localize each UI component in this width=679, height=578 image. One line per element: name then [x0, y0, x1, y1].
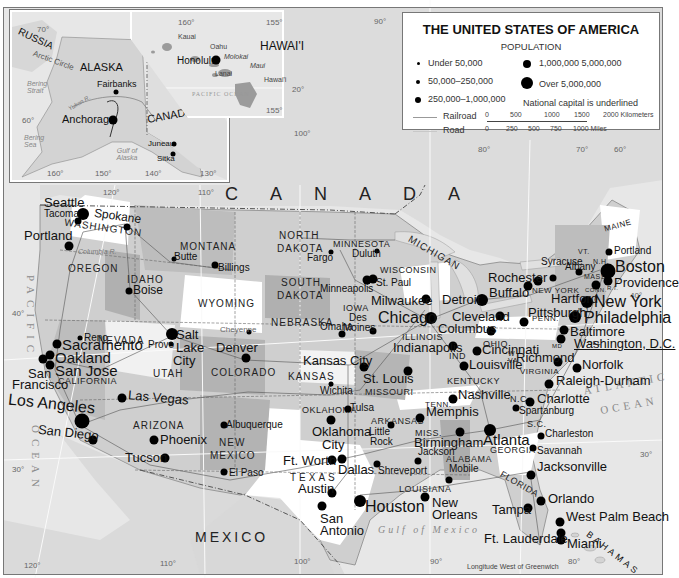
oklahoma-city-label-2: City	[322, 438, 344, 451]
scale-km-1500: 1500	[574, 111, 590, 118]
deg-70-label: 70°	[37, 26, 49, 34]
mobile-label: Mobile	[449, 464, 478, 474]
duluth-label: Duluth	[352, 249, 381, 259]
legend-capital-note: National capital is underlined	[523, 98, 638, 108]
savannah-label: Savannah	[537, 446, 582, 456]
phoenix-dot	[150, 436, 159, 445]
el-paso-dot	[221, 469, 228, 476]
scale-mi-0: 0	[485, 125, 489, 132]
san-francisco-label-2: Francisco	[12, 378, 68, 391]
deg-110-bot: 110°	[160, 560, 176, 568]
anchorage-dot	[109, 116, 118, 125]
hartford-dot	[592, 281, 601, 290]
houston-label: Houston	[365, 499, 425, 515]
gulf-of-alaska-label: Gulf of Alaska	[112, 147, 142, 161]
spartanburg-label: Spartanburg	[519, 406, 574, 416]
scale-km-0: 0	[485, 111, 489, 118]
austin-label: Austin	[298, 482, 334, 495]
legend-railroad: Railroad	[443, 111, 477, 121]
washington-dc-label: Washington, D.C.	[574, 337, 675, 350]
phoenix-label: Phoenix	[160, 433, 207, 446]
maui-label: Maui	[250, 62, 265, 69]
des-moines-label-2: Moines	[343, 323, 375, 333]
washington-dc-dot	[557, 335, 566, 344]
butte-label: Butte	[174, 252, 197, 262]
deg-90-top: 90°	[374, 18, 386, 26]
deg-140-label: 140°	[145, 170, 162, 178]
scale-km-500: 500	[510, 111, 522, 118]
hi-deg-20-label: 20°	[292, 86, 304, 94]
mexico-label: MEXICO	[195, 530, 268, 544]
norfolk-label: Norfolk	[582, 358, 623, 371]
jacksonville-dot	[527, 471, 536, 480]
longitude-note: Longitude West of Greenwich	[467, 563, 559, 570]
legend-road-line	[413, 131, 437, 132]
tulsa-label: Tulsa	[350, 403, 374, 413]
molokai-label: Molokai	[224, 53, 248, 60]
memphis-dot	[416, 414, 425, 423]
hi-deg-155-bot-label: 155°	[266, 107, 283, 115]
columbia-river-label: Columbia R.	[78, 248, 117, 255]
state-colorado: COLORADO	[211, 368, 276, 378]
nashville-dot	[449, 395, 458, 404]
state-wyoming: WYOMING	[198, 299, 255, 309]
minneapolis-label: Minneapolis	[320, 284, 373, 294]
state-south-dakota-2: DAKOTA	[277, 291, 323, 301]
orlando-dot	[537, 497, 546, 506]
new-orleans-label-2: Orleans	[432, 508, 478, 521]
scale-km-1000: 1000	[544, 111, 560, 118]
tacoma-label: Tacoma	[44, 209, 79, 219]
state-virginia: VIRGINIA	[520, 368, 559, 376]
hi-deg-155-top-label: 155°	[266, 19, 283, 27]
jackson-dot	[415, 458, 422, 465]
state-missouri: MISSOURI	[365, 388, 414, 397]
detroit-label: Detroit	[442, 293, 480, 306]
cheyenne-label: Cheyenne	[220, 326, 256, 334]
louisville-label: Louisville	[469, 358, 522, 371]
deg-160-label: 160°	[47, 170, 64, 178]
philadelphia-label: Philadelphia	[584, 310, 671, 326]
orlando-label: Orlando	[548, 492, 594, 505]
syracuse-label: Syracuse	[541, 257, 583, 267]
lanai-label: Lanai	[215, 70, 232, 77]
columbus-label: Columbus	[438, 322, 497, 335]
legend-railroad-line	[413, 117, 437, 118]
birmingham-label: Birmingham	[414, 436, 483, 449]
anchorage-label: Anchorage	[62, 114, 115, 125]
sacramento-dot	[53, 340, 62, 349]
sitka-dot	[171, 152, 176, 157]
scale-bar	[487, 121, 587, 122]
legend-50k-250k: 50,000–250,000	[428, 76, 493, 86]
west-palm-beach-label: West Palm Beach	[566, 510, 669, 523]
hawaii-title: HAWAI'I	[260, 40, 304, 52]
state-oregon: OREGON	[68, 264, 118, 274]
west-palm-beach-dot	[556, 518, 565, 527]
pittsburgh-label: Pittsburgh	[528, 306, 587, 319]
provo-label: Provo	[148, 340, 174, 350]
reno-label: Reno	[84, 333, 108, 343]
charleston-dot	[538, 433, 545, 440]
gulf-of-mexico-label: Gulf of Mexico	[378, 525, 480, 535]
state-utah: UTAH	[153, 369, 183, 379]
boise-dot	[126, 288, 133, 295]
deg-80-top: 80°	[478, 146, 490, 154]
salt-lake-label-3: City	[173, 354, 195, 367]
deg-60-label: 60°	[22, 117, 34, 125]
baltimore-dot	[560, 326, 569, 335]
state-south-dakota-1: SOUTH	[281, 278, 321, 288]
honolulu-dot	[212, 56, 221, 65]
portland-me-dot	[606, 249, 613, 256]
scale-mi-500: 500	[528, 125, 540, 132]
deg-40-west: 40°	[12, 310, 24, 318]
legend-250k-1m: 250,000–1,000,000	[428, 94, 506, 104]
legend-dot-under-50k	[417, 62, 420, 65]
deg-70-top: 70°	[576, 146, 588, 154]
atlanta-label: Atlanta	[483, 432, 530, 447]
state-new-mexico-2: MEXICO	[210, 451, 255, 461]
richmond-label: Richmond	[516, 351, 575, 364]
nashville-label: Nashville	[458, 388, 511, 401]
oahu-label: Oahu	[210, 43, 227, 50]
tampa-label: Tampa	[492, 503, 531, 516]
deg-130-label: 130°	[200, 170, 217, 178]
legend-1m-5m: 1,000,000 5,000,000	[539, 58, 622, 68]
